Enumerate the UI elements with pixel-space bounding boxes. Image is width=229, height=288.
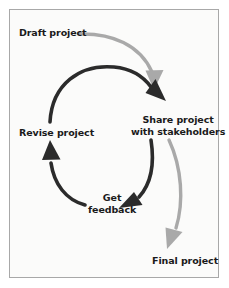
diagram-canvas	[0, 0, 229, 288]
node-label-get-feedback-line1: Get	[88, 192, 136, 204]
node-label-get-feedback: Get feedback	[88, 192, 136, 215]
node-label-share-project: Share project with stakeholders	[131, 114, 225, 137]
node-label-revise-project: Revise project	[19, 127, 94, 139]
arrow-feedback-to-revise	[42, 140, 85, 205]
arrow-draft-to-share	[79, 34, 164, 90]
node-label-final-project: Final project	[152, 255, 218, 267]
diagram-page: Draft project Share project with stakeho…	[0, 0, 229, 288]
node-label-share-project-line1: Share project	[131, 114, 225, 126]
arrow-share-to-final	[166, 140, 183, 249]
node-label-draft-project: Draft project	[19, 27, 87, 39]
node-label-share-project-line2: with stakeholders	[131, 126, 225, 138]
node-label-get-feedback-line2: feedback	[88, 204, 136, 216]
